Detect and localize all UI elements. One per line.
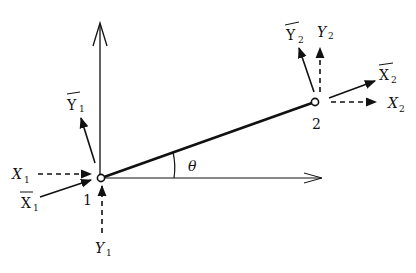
label-x1: X 1 — [11, 166, 30, 185]
svg-text:2: 2 — [298, 35, 304, 45]
svg-text:1: 1 — [33, 203, 39, 213]
node-2-circle — [311, 98, 318, 105]
force-y1bar-arrow — [81, 118, 95, 163]
node-1-label: 1 — [83, 192, 92, 208]
force-y2bar-arrow — [299, 48, 314, 92]
label-x2bar: X 2 — [379, 63, 397, 85]
svg-text:X: X — [387, 95, 399, 111]
label-x1bar: X 1 — [20, 192, 39, 213]
svg-text:X: X — [11, 166, 23, 182]
label-y1bar: Y 1 — [66, 92, 85, 114]
svg-text:X: X — [379, 67, 389, 83]
svg-text:1: 1 — [24, 175, 30, 185]
svg-text:1: 1 — [106, 248, 112, 258]
force-x2bar-arrow — [329, 81, 375, 98]
label-y1: Y 1 — [95, 240, 112, 258]
angle-arc — [173, 152, 175, 178]
beam-element — [104, 103, 312, 177]
svg-text:2: 2 — [391, 75, 397, 85]
svg-text:2: 2 — [399, 104, 405, 114]
svg-text:Y: Y — [285, 27, 296, 43]
svg-text:Y: Y — [66, 97, 77, 113]
svg-text:Y: Y — [317, 24, 328, 40]
svg-text:1: 1 — [79, 104, 85, 114]
label-x2: X 2 — [387, 95, 405, 114]
node-2-label: 2 — [312, 116, 321, 132]
label-y2: Y 2 — [317, 24, 334, 41]
beam-diagram: θ 1 2 X 1 X 1 Y 1 Y 1 X 2 X 2 — [0, 0, 416, 273]
node-1-circle — [97, 174, 104, 181]
label-y2bar: Y 2 — [285, 22, 304, 45]
svg-text:X: X — [21, 195, 31, 211]
angle-theta-label: θ — [188, 158, 197, 174]
svg-text:Y: Y — [95, 240, 106, 256]
svg-text:2: 2 — [328, 31, 334, 41]
global-y-axis — [93, 23, 107, 176]
global-x-axis — [104, 173, 322, 183]
